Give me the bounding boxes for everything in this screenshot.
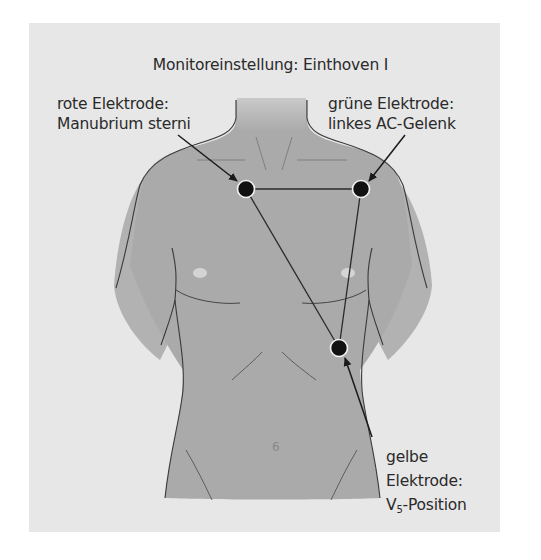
yellow-electrode-name-2: Elektrode:	[386, 469, 467, 493]
green-electrode-label: grüne Elektrode: linkes AC-Gelenk	[328, 94, 456, 134]
electrode-green	[353, 181, 370, 198]
electrode-red	[238, 181, 255, 198]
v-prefix: V	[386, 496, 396, 514]
yellow-electrode-label: gelbe Elektrode: V5-Position	[386, 445, 467, 517]
torso-body	[130, 100, 412, 500]
red-electrode-name: rote Elektrode:	[57, 94, 191, 114]
red-electrode-location: Manubrium sterni	[57, 114, 191, 134]
position-suffix: -Position	[403, 496, 467, 514]
nipple-right	[341, 268, 355, 278]
yellow-electrode-name-1: gelbe	[386, 445, 467, 469]
nipple-left	[193, 268, 207, 278]
navel: 6	[272, 440, 280, 454]
green-electrode-location: linkes AC-Gelenk	[328, 114, 456, 134]
electrode-yellow	[331, 340, 348, 357]
green-electrode-name: grüne Elektrode:	[328, 94, 456, 114]
monitor-setting-title: Monitoreinstellung: Einthoven I	[0, 55, 541, 75]
neck	[237, 98, 306, 130]
red-electrode-label: rote Elektrode: Manubrium sterni	[57, 94, 191, 134]
yellow-electrode-location: V5-Position	[386, 493, 467, 517]
